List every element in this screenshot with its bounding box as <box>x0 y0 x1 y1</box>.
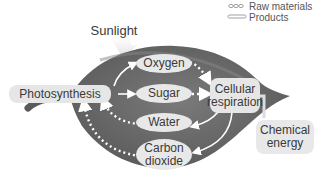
legend-raw-materials-label: Raw materials <box>249 1 312 12</box>
photosynthesis-box: Photosynthesis <box>9 85 111 103</box>
oxygen-label: Oxygen <box>143 57 184 70</box>
sugar-label: Sugar <box>148 87 180 100</box>
legend-products-label: Products <box>249 12 288 23</box>
sugar-oval: Sugar <box>136 84 192 103</box>
legend-products: Products <box>226 12 312 23</box>
chemical-energy-label-2: energy <box>267 137 304 150</box>
cellular-respiration-label-2: respiration <box>207 96 263 109</box>
oxygen-oval: Oxygen <box>136 54 192 73</box>
legend: Raw materials Products <box>226 1 312 23</box>
cellular-respiration-box: Cellular respiration <box>210 78 260 113</box>
carbon-dioxide-label-2: dioxide <box>145 155 183 168</box>
chemical-energy-box: Chemical energy <box>256 120 314 154</box>
sunlight-label: Sunlight <box>84 24 144 37</box>
legend-raw-materials: Raw materials <box>226 1 312 12</box>
water-label: Water <box>148 116 180 129</box>
water-oval: Water <box>136 113 192 132</box>
cellular-respiration-label-1: Cellular <box>215 83 256 96</box>
photosynthesis-label: Photosynthesis <box>19 88 100 101</box>
carbon-dioxide-label-1: Carbon <box>144 142 183 155</box>
carbon-dioxide-oval: Carbon dioxide <box>136 139 192 170</box>
